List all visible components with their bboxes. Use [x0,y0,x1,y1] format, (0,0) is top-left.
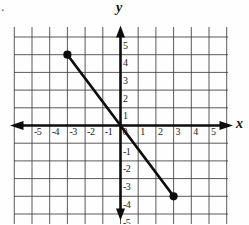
y-tick-label: 3 [123,76,128,86]
x-tick-label: 2 [158,127,163,137]
y-tick-label: 2 [123,94,128,104]
y-tick-label: -1 [123,147,130,157]
x-tick-label: 5 [211,127,216,137]
x-axis-label: x [236,117,243,131]
y-tick-label: 1 [123,111,128,121]
y-tick-label: -2 [123,164,130,174]
x-axis-arrow-left [10,121,24,130]
x-tick-label: 0 [123,127,128,137]
y-tick-label: -3 [123,182,130,192]
y-axis-arrow-up [116,26,125,38]
x-tick-label: 1 [140,127,145,137]
x-tick-label: -4 [52,127,59,137]
y-tick-label: -4 [123,200,130,210]
coordinate-plane-figure: . -5-4-3-2-101234554321-1-2-3-4-5 y x [0,0,249,224]
x-tick-label: -3 [69,127,76,137]
y-tick-label: -5 [123,218,130,225]
y-axis-label: y [116,1,122,15]
x-tick-label: -2 [87,127,94,137]
endpoint-dot [63,51,71,59]
y-tick-label: 4 [123,58,128,68]
endpoint-dot [170,192,178,200]
y-tick-label: 5 [123,41,128,51]
x-tick-label: 3 [176,127,181,137]
x-tick-label: 4 [193,127,198,137]
x-tick-label: -1 [105,127,112,137]
x-tick-label: -5 [34,127,41,137]
